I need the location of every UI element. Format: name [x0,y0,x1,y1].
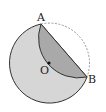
label-o: O [40,64,49,77]
label-a: A [36,11,46,24]
label-b: B [88,73,96,86]
folded-circle-diagram: A B O [0,0,106,112]
